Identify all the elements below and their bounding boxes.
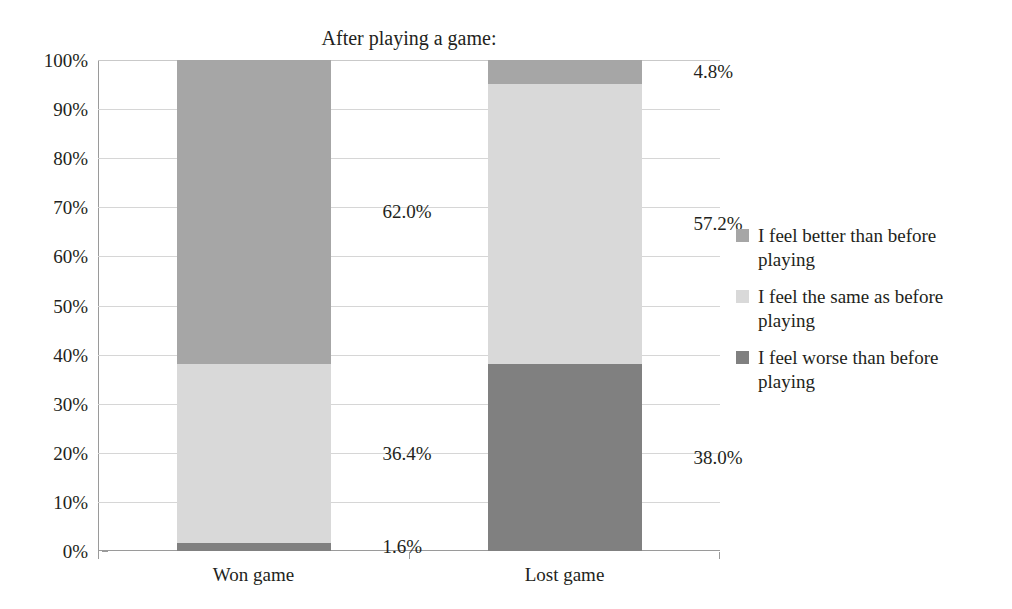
- y-axis-tick-label: 70%: [16, 198, 88, 217]
- x-axis-tick-mark: [409, 552, 410, 559]
- x-axis-category-label: Won game: [98, 564, 409, 586]
- y-axis-tick-label: 0%: [16, 542, 88, 561]
- bar-stack[interactable]: [488, 60, 642, 551]
- y-axis-tick-label: 60%: [16, 247, 88, 266]
- legend-swatch-icon: [736, 290, 749, 303]
- data-label: 4.8%: [694, 62, 734, 81]
- x-axis-tick-mark: [98, 552, 99, 559]
- y-axis-tick-labels: 0%10%20%30%40%50%60%70%80%90%100%: [10, 60, 88, 551]
- legend-swatch-icon: [736, 229, 749, 242]
- bar-segment[interactable]: [177, 60, 331, 364]
- y-axis-tick-label: 40%: [16, 346, 88, 365]
- legend-item[interactable]: I feel worse than before playing: [736, 346, 1002, 394]
- y-axis-tick-label: 10%: [16, 493, 88, 512]
- y-axis-tick-label: 20%: [16, 444, 88, 463]
- chart-legend: I feel better than before playingI feel …: [736, 224, 1002, 407]
- data-label: 62.0%: [383, 202, 432, 221]
- bar-segment[interactable]: [488, 364, 642, 551]
- legend-item-label: I feel better than before playing: [758, 224, 986, 272]
- legend-item-label: I feel worse than before playing: [758, 346, 986, 394]
- stacked-bar-chart: After playing a game: 0%10%20%30%40%50%6…: [0, 0, 1012, 609]
- y-axis-tick-label: 90%: [16, 100, 88, 119]
- legend-item-label: I feel the same as before playing: [758, 285, 986, 333]
- bar-segment[interactable]: [177, 364, 331, 543]
- y-axis-tick-label: 100%: [16, 51, 88, 70]
- bar-segment[interactable]: [177, 543, 331, 551]
- y-axis-tick-label: 50%: [16, 297, 88, 316]
- bar-segment[interactable]: [488, 84, 642, 365]
- x-axis-tick-mark: [719, 552, 720, 559]
- legend-swatch-icon: [736, 351, 749, 364]
- bar-segment[interactable]: [488, 60, 642, 84]
- y-axis-tick-label: 80%: [16, 149, 88, 168]
- chart-title: After playing a game:: [98, 26, 720, 50]
- data-label: 38.0%: [694, 448, 743, 467]
- y-axis-tick-label: 30%: [16, 395, 88, 414]
- x-axis: Won gameLost game: [98, 552, 720, 602]
- legend-item[interactable]: I feel the same as before playing: [736, 285, 1002, 333]
- x-axis-category-label: Lost game: [409, 564, 720, 586]
- plot-area: 1.6%36.4%62.0%38.0%57.2%4.8%: [98, 60, 720, 551]
- data-label: 36.4%: [383, 444, 432, 463]
- legend-item[interactable]: I feel better than before playing: [736, 224, 1002, 272]
- bar-stack[interactable]: [177, 60, 331, 551]
